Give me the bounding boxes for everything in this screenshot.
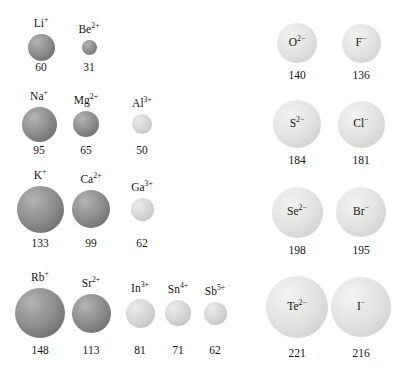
ion-te-anion-charge: 2− bbox=[299, 298, 307, 307]
ion-be-cation-label: Be2+ bbox=[54, 24, 124, 36]
ion-rb-cation-symbol: Rb bbox=[31, 271, 44, 283]
ion-se-anion-charge: 2− bbox=[299, 203, 307, 212]
ion-cl-anion-charge: − bbox=[364, 115, 368, 124]
ion-te-anion-radius-value: 221 bbox=[262, 348, 332, 360]
ion-be-cation-sphere bbox=[82, 40, 97, 55]
ion-al-cation-symbol: Al bbox=[132, 97, 144, 109]
ion-ca-cation-charge: 2+ bbox=[93, 171, 101, 180]
ion-k-cation-sphere bbox=[17, 186, 64, 233]
ion-na-cation-charge: + bbox=[44, 88, 48, 97]
ion-li-cation-charge: + bbox=[44, 15, 48, 24]
ion-cl-anion-radius-value: 181 bbox=[326, 155, 396, 167]
ion-mg-cation-symbol: Mg bbox=[74, 94, 90, 106]
ion-rb-cation-sphere bbox=[15, 288, 65, 338]
ion-in-cation-sphere bbox=[126, 299, 155, 328]
ion-sb-cation-radius-value: 62 bbox=[180, 345, 250, 357]
ion-o-anion-charge: 2− bbox=[297, 34, 305, 43]
ion-ga-cation-symbol: Ga bbox=[131, 181, 144, 193]
ion-mg-cation-sphere bbox=[73, 111, 99, 137]
ion-o-anion-radius-value: 140 bbox=[262, 70, 332, 82]
ion-te-anion-symbol: Te bbox=[287, 300, 298, 312]
ion-f-anion-radius-value: 136 bbox=[326, 70, 396, 82]
ion-sn-cation-sphere bbox=[165, 300, 191, 326]
ion-be-cation-radius-value: 31 bbox=[54, 62, 124, 74]
ion-o-anion-symbol: O bbox=[289, 36, 297, 48]
ion-in-cation-symbol: In bbox=[131, 282, 141, 294]
ion-al-cation-label: Al3+ bbox=[107, 98, 177, 110]
ion-na-cation-sphere bbox=[22, 107, 57, 142]
ion-li-cation-sphere bbox=[28, 34, 55, 61]
ion-cl-anion-symbol: Cl bbox=[353, 117, 364, 129]
ion-sn-cation-symbol: Sn bbox=[168, 283, 180, 295]
ion-br-anion-charge: − bbox=[365, 203, 369, 212]
ion-be-cation-charge: 2+ bbox=[91, 21, 99, 30]
ion-br-anion-radius-value: 195 bbox=[326, 245, 396, 257]
ion-ca-cation-sphere bbox=[72, 190, 110, 228]
ion-se-anion-label: Se2− bbox=[262, 206, 332, 218]
ion-s-anion-radius-value: 184 bbox=[262, 155, 332, 167]
ion-rb-cation-charge: + bbox=[45, 269, 49, 278]
ion-al-cation-radius-value: 50 bbox=[107, 145, 177, 157]
ion-i-anion-charge: − bbox=[361, 298, 365, 307]
ion-o-anion-label: O2− bbox=[262, 37, 332, 49]
ion-k-cation-charge: + bbox=[42, 167, 46, 176]
ion-ga-cation-radius-value: 62 bbox=[107, 238, 177, 250]
ion-f-anion-label: F− bbox=[326, 37, 396, 49]
ion-se-anion-radius-value: 198 bbox=[262, 245, 332, 257]
ion-f-anion-charge: − bbox=[362, 34, 366, 43]
ion-na-cation-symbol: Na bbox=[30, 90, 43, 102]
ion-sb-cation-symbol: Sb bbox=[205, 285, 217, 297]
ion-sb-cation-label: Sb5+ bbox=[180, 286, 250, 298]
ion-li-cation-symbol: Li bbox=[34, 17, 44, 29]
ion-cl-anion-label: Cl− bbox=[326, 118, 396, 130]
ion-se-anion-symbol: Se bbox=[287, 205, 299, 217]
ion-k-cation-symbol: K bbox=[34, 169, 42, 181]
ion-mg-cation-charge: 2+ bbox=[90, 92, 98, 101]
ion-ga-cation-sphere bbox=[131, 198, 154, 221]
ion-al-cation-charge: 3+ bbox=[144, 95, 152, 104]
ion-s-anion-charge: 2− bbox=[296, 115, 304, 124]
ion-ga-cation-label: Ga3+ bbox=[107, 182, 177, 194]
ion-al-cation-sphere bbox=[132, 114, 152, 134]
ion-sb-cation-sphere bbox=[204, 302, 227, 325]
ionic-radii-figure: Li+60Be2+31Na+95Mg2+65Al3+50K+133Ca2+99G… bbox=[0, 0, 409, 375]
ion-i-anion-radius-value: 216 bbox=[326, 348, 396, 360]
ion-ca-cation-symbol: Ca bbox=[80, 173, 93, 185]
ion-ga-cation-charge: 3+ bbox=[145, 179, 153, 188]
ion-br-anion-label: Br− bbox=[326, 206, 396, 218]
ion-te-anion-label: Te2− bbox=[262, 301, 332, 313]
ion-sr-cation-symbol: Sr bbox=[82, 277, 92, 289]
ion-be-cation-symbol: Be bbox=[78, 23, 91, 35]
ion-sb-cation-charge: 5+ bbox=[217, 283, 225, 292]
ion-s-anion-label: S2− bbox=[262, 118, 332, 130]
ion-sr-cation-sphere bbox=[72, 294, 111, 333]
ion-i-anion-label: I− bbox=[326, 301, 396, 313]
ion-br-anion-symbol: Br bbox=[353, 205, 365, 217]
ion-sr-cation-charge: 2+ bbox=[92, 275, 100, 284]
